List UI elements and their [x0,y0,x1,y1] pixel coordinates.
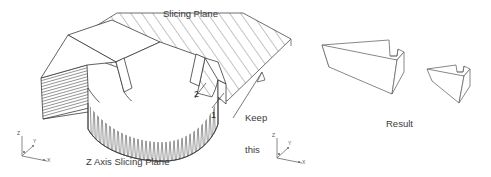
callout-2-label: 2 [194,89,199,99]
callout-1-label: 1 [211,110,216,120]
result-label: Result [386,119,413,130]
result-large-notch-edge [390,49,398,56]
center-axis-z-label: Z [272,132,275,138]
keep-line-2: this [245,145,267,156]
result-block-small [427,65,470,103]
model-right-arm-face [218,80,226,104]
center-axis-y-label: Y [288,140,291,146]
left-axis-x-label: X [47,157,50,163]
left-axis-z-label: Z [17,130,20,136]
result-small-notch-edge [457,66,464,72]
keep-line-1: Keep [245,113,267,124]
z-axis-slicing-plane-label: Z Axis Slicing Plane [86,157,169,168]
keep-this-side-label: Keep this side [245,92,267,177]
center-axis-x-label: X [302,159,305,165]
result-block-large [322,40,404,94]
slicing-plane-label: Slicing Plane [163,9,218,20]
left-axis-y-label: Y [33,138,36,144]
